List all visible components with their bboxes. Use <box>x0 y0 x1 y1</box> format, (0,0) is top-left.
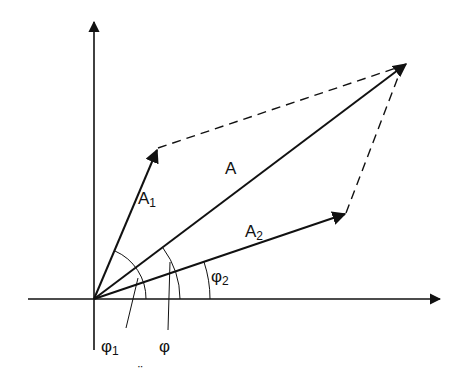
arc-phi2 <box>204 262 210 299</box>
vector-a <box>94 64 406 299</box>
label-a: A <box>225 160 236 177</box>
phasor-diagram <box>0 0 456 377</box>
label-phi1: φ1 <box>101 338 119 357</box>
label-a1: A1 <box>138 190 156 209</box>
vector-a1 <box>94 150 157 299</box>
scan-artifact: ¨ <box>138 364 143 377</box>
arc-phi1 <box>115 251 146 299</box>
label-phi2: φ2 <box>211 268 229 287</box>
dashed-edge-a1-to-a <box>158 66 402 148</box>
label-a2: A2 <box>245 223 263 242</box>
leader-phi <box>168 262 170 330</box>
dashed-edge-a2-to-a <box>346 72 400 213</box>
label-phi: φ <box>159 338 170 355</box>
